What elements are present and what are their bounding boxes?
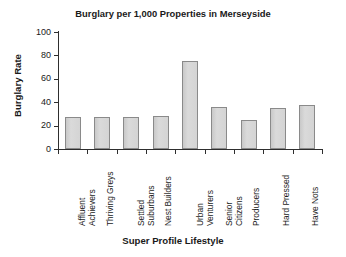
- category-label-line: Thriving Greys: [106, 172, 116, 226]
- x-axis-tick: [175, 150, 176, 154]
- x-axis-tick: [263, 150, 264, 154]
- bar: [123, 117, 139, 149]
- x-axis-tick: [234, 150, 235, 154]
- bar: [241, 120, 257, 149]
- x-axis-category-label: Hard Pressed: [282, 175, 292, 226]
- bar: [299, 105, 315, 149]
- bar: [153, 116, 169, 149]
- y-axis-tick-label: 60: [26, 73, 51, 83]
- x-axis-category-label: Thriving Greys: [106, 172, 116, 226]
- x-axis-category-label: UrbanVenturers: [196, 190, 215, 226]
- x-axis-tick: [322, 150, 323, 154]
- bar: [270, 108, 286, 149]
- x-axis-category-label: Nest Builders: [164, 176, 174, 226]
- x-axis-category-label: Producers: [252, 188, 262, 226]
- x-axis-tick: [87, 150, 88, 154]
- y-axis-tick-label: 100: [26, 27, 51, 37]
- y-axis-tick-label: 20: [26, 120, 51, 130]
- x-axis-category-label: SeniorCitizens: [225, 196, 244, 226]
- category-label-line: Hard Pressed: [282, 175, 292, 226]
- category-label-line: Have Nots: [311, 187, 321, 226]
- x-axis-line: [58, 149, 323, 150]
- y-axis-tick-label: 80: [26, 50, 51, 60]
- category-label-line: Settled: [137, 185, 147, 226]
- clipped-text-remnant: [0, 0, 346, 2]
- category-label-line: Achievers: [88, 189, 98, 226]
- category-label-line: Urban: [196, 190, 206, 226]
- x-axis-label: Super Profile Lifestyle: [0, 235, 346, 246]
- category-label-line: Venturers: [205, 190, 215, 226]
- category-label-line: Senior: [225, 196, 235, 226]
- category-label-line: Suburbans: [146, 185, 156, 226]
- x-axis-tick: [58, 150, 59, 154]
- bar: [182, 61, 198, 149]
- x-axis-tick: [117, 150, 118, 154]
- chart-title: Burglary per 1,000 Properties in Merseys…: [0, 8, 346, 19]
- x-axis-tick: [146, 150, 147, 154]
- category-label-line: Nest Builders: [164, 176, 174, 226]
- x-axis-category-label: SettledSuburbans: [137, 185, 156, 226]
- y-axis-tick-label: 40: [26, 97, 51, 107]
- y-axis-tick-label: 0: [26, 144, 51, 154]
- category-label-line: Citizens: [234, 196, 244, 226]
- x-axis-category-label: AffluentAchievers: [78, 189, 97, 226]
- x-axis-tick: [205, 150, 206, 154]
- bar: [94, 117, 110, 149]
- plot-area: [58, 32, 322, 149]
- x-axis-tick: [293, 150, 294, 154]
- y-axis-label: Burglary Rate: [12, 46, 23, 126]
- category-label-line: Producers: [252, 188, 262, 226]
- x-axis-category-label: Have Nots: [311, 187, 321, 226]
- bar: [211, 107, 227, 149]
- bar: [65, 117, 81, 149]
